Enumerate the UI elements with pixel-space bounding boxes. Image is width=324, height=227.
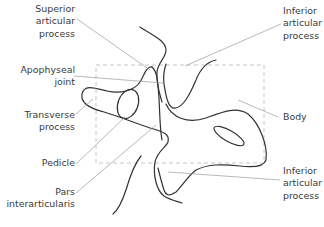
label-apophyseal-joint: Apophyseal joint: [20, 64, 75, 89]
body-outline: [158, 104, 266, 195]
apophyseal-joint-outline: [82, 67, 182, 203]
label-inferior-articular-process-bottom: Inferior articular process: [283, 165, 322, 202]
label-inferior-articular-process-top: Inferior articular process: [283, 5, 322, 42]
leader-inferior-bottom: [168, 172, 280, 180]
label-pars-interarticularis: Pars interarticularis: [6, 186, 75, 211]
label-body: Body: [283, 111, 307, 123]
label-transverse-process: Transverse process: [24, 109, 75, 134]
leader-superior-articular: [77, 19, 150, 70]
leader-body: [238, 100, 278, 117]
leader-apophyseal-joint: [74, 76, 163, 83]
bottom-left-strand: [113, 156, 141, 214]
body-foramen-outline: [212, 123, 247, 150]
leader-pedicle: [76, 117, 125, 164]
label-pedicle: Pedicle: [42, 157, 75, 169]
leader-pars: [76, 125, 156, 193]
label-superior-articular-process: Superior articular process: [35, 3, 75, 40]
inferior-articular-process-outline: [164, 60, 216, 108]
superior-articular-process-outline: [140, 27, 166, 102]
leader-inferior-top: [185, 24, 281, 66]
